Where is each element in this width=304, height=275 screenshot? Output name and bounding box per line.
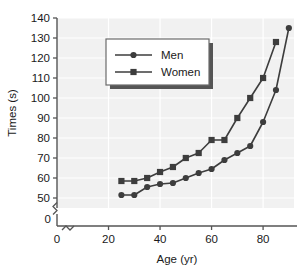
- data-point: [131, 178, 137, 184]
- data-point: [118, 178, 124, 184]
- data-point: [144, 184, 150, 190]
- y-tick-label-120: 120: [31, 52, 50, 64]
- y-tick-label-50: 50: [37, 192, 50, 204]
- data-point: [196, 150, 202, 156]
- data-point: [183, 175, 189, 181]
- y-tick-label-140: 140: [31, 12, 50, 24]
- y-tick-label-70: 70: [37, 152, 50, 164]
- data-point: [221, 157, 227, 163]
- data-point: [221, 137, 227, 143]
- y-tick-label-80: 80: [37, 132, 50, 144]
- data-point: [196, 170, 202, 176]
- data-point: [118, 192, 124, 198]
- legend-box: [106, 39, 209, 85]
- y-tick-label-60: 60: [37, 172, 50, 184]
- x-axis-ticks: 20406080: [102, 226, 269, 245]
- y-axis-ticks: 5060708090100110120130140: [31, 12, 57, 204]
- y-tick-label-100: 100: [31, 92, 50, 104]
- x-axis-origin-label: 0: [54, 233, 60, 245]
- data-point: [234, 115, 240, 121]
- legend-men-label: Men: [161, 49, 183, 61]
- y-axis-title: Times (s): [6, 89, 18, 137]
- y-tick-label-90: 90: [37, 112, 50, 124]
- data-point: [247, 95, 253, 101]
- data-point: [131, 192, 137, 198]
- x-tick-label-80: 80: [257, 233, 270, 245]
- data-point: [170, 180, 176, 186]
- legend-men-circle-marker: [130, 52, 136, 58]
- y-tick-label-110: 110: [32, 72, 50, 84]
- data-point: [208, 166, 214, 172]
- data-point: [247, 143, 253, 149]
- x-tick-label-20: 20: [102, 233, 115, 245]
- x-axis-title: Age (yr): [157, 253, 198, 265]
- data-point: [234, 150, 240, 156]
- x-tick-label-60: 60: [205, 233, 218, 245]
- data-point: [273, 39, 279, 45]
- y-tick-label-130: 130: [31, 32, 50, 44]
- chart-container: 5060708090100110120130140 0 20406080 0 T…: [0, 0, 304, 275]
- data-point: [208, 137, 214, 143]
- x-tick-label-40: 40: [154, 233, 167, 245]
- data-point: [157, 169, 163, 175]
- y-axis-origin-label: 0: [45, 213, 51, 225]
- data-point: [183, 155, 189, 161]
- legend-women-label: Women: [161, 66, 200, 78]
- data-point: [273, 87, 279, 93]
- data-point: [260, 119, 266, 125]
- data-point: [144, 175, 150, 181]
- data-point: [260, 75, 266, 81]
- chart-legend: Men Women: [106, 39, 213, 89]
- data-point: [157, 181, 163, 187]
- data-point: [170, 164, 176, 170]
- times-vs-age-line-chart: 5060708090100110120130140 0 20406080 0 T…: [0, 0, 304, 275]
- legend-women-square-marker: [130, 69, 136, 75]
- data-point: [286, 25, 292, 31]
